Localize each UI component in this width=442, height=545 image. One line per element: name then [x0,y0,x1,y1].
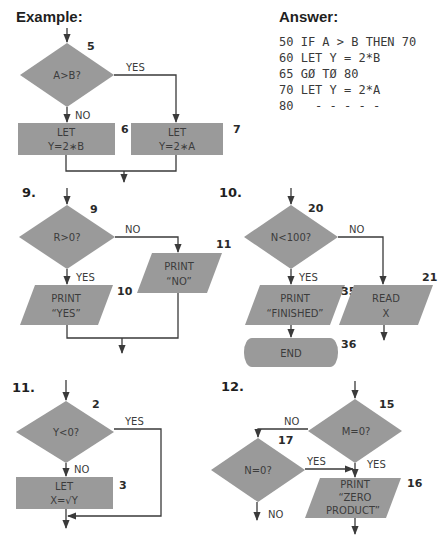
decision-label: M=0? [342,426,371,437]
code-line: 60 LET Y = 2*B [279,51,380,65]
step-number: 21 [422,271,437,284]
process-line1: LET [168,127,187,138]
problem-11: 11. Y<0? 2 YES NO LET X=√Y 3 [12,380,161,528]
problem-9: 9. R>0? 9 NO YES PRINT “YES” 10 PRINT “N… [19,185,231,353]
decision-label: N=0? [244,465,272,476]
step-number: 15 [379,398,394,411]
output-line2: “YES” [51,308,80,319]
merge-connector [66,155,176,171]
output-line2: “ZERO [339,492,372,503]
problem-number: 9. [22,185,36,200]
no-label: NO [284,416,299,427]
example-section: Example: A>B? 5 YES NO LET Y=2∗B 6 LET Y… [16,8,241,182]
step-number: 17 [278,434,293,447]
step-number: 10 [117,285,133,298]
decision-label: R>0? [54,232,81,243]
output-line1: PRINT [280,293,310,304]
output-line2: “NO” [166,276,192,287]
decision-label: N<100? [271,232,311,243]
yes-label: YES [366,459,386,470]
no-label: NO [75,110,90,121]
problem-number: 10. [219,185,242,200]
output-line1: PRINT [164,261,194,272]
step-number: 6 [121,123,129,136]
no-connector [115,237,178,252]
output-parallelogram-yes [20,285,113,325]
process-line2: X=√Y [50,495,79,506]
input-line2: X [383,308,390,319]
yes-label: YES [124,416,144,427]
process-line2: Y=2∗B [47,141,84,152]
code-line: 65 GØ TØ 80 [279,67,358,81]
code-line: 80 - - - - - [279,99,380,113]
answer-section: Answer: 50 IF A > B THEN 70 60 LET Y = 2… [279,8,416,113]
step-number: 5 [87,40,95,53]
yes-label: YES [125,62,145,73]
code-line: 70 LET Y = 2*A [279,83,381,97]
answer-title: Answer: [279,8,338,25]
output-parallelogram-no [137,253,222,293]
yes-label: YES [75,272,95,283]
problem-10: 10. N<100? 20 NO YES PRINT “FINISHED” 35… [219,185,437,367]
process-line1: LET [57,127,76,138]
problem-number: 12. [221,379,244,394]
output-line1: PRINT [340,479,370,490]
process-line2: Y=2∗A [158,141,195,152]
decision-label: Y<0? [52,427,79,438]
problem-number: 11. [12,380,35,395]
step-number: 16 [407,477,423,490]
step-number: 11 [216,238,231,251]
yes-label: YES [298,272,318,283]
example-title: Example: [16,8,83,25]
flowchart-exercises: Example: A>B? 5 YES NO LET Y=2∗B 6 LET Y… [0,0,442,545]
terminal-label: END [280,348,302,359]
no-label: NO [74,464,89,475]
step-number: 3 [119,479,127,492]
output-line1: PRINT [51,293,81,304]
step-number: 2 [92,398,100,411]
output-line3: PRODUCT” [326,505,380,516]
step-number: 9 [90,203,98,216]
input-line1: READ [372,293,400,304]
output-line2: “FINISHED” [267,308,324,319]
step-number: 36 [341,338,357,351]
process-line1: LET [55,481,74,492]
no-connector [338,237,383,284]
input-parallelogram-read [339,285,433,325]
output-parallelogram-print [245,285,345,325]
no-label: NO [125,224,140,235]
step-number: 7 [233,123,241,136]
yes-label: YES [306,456,326,467]
decision-label: A>B? [53,70,80,81]
problem-12: 12. M=0? 15 NO N=0? 17 YES YES NO PRINT … [211,379,423,534]
step-number: 20 [308,202,324,215]
yes-connector [114,75,176,122]
no-label: NO [268,509,283,520]
code-line: 50 IF A > B THEN 70 [279,35,416,49]
no-label: NO [349,224,364,235]
